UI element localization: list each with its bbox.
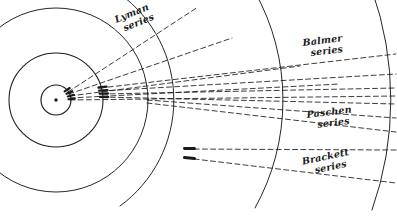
lyman-line-3 [70,66,300,96]
balmer-line-4 [102,97,396,104]
nucleus-dot [54,98,57,101]
brackett-line-2 [186,158,396,183]
paschen-line-2 [147,103,396,132]
spectral-series-diagram: Lyman series Balmer series Paschen serie… [0,0,397,217]
balmer-line-1 [100,54,396,88]
paschen-transitions [147,100,396,132]
brackett-transitions [186,149,396,183]
orbit-n6 [372,0,391,210]
balmer-line-3 [102,88,396,94]
brackett-arrowheads [185,148,195,158]
orbit-n5 [255,0,283,208]
lyman-line-2 [69,38,232,94]
lyman-line-5 [70,96,396,100]
brackett-line-1 [186,149,396,150]
